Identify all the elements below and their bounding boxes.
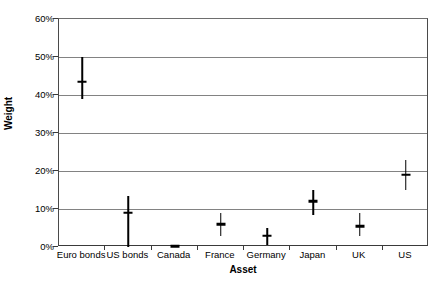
data-series-weight [59,19,427,245]
x-axis-tick-label: France [205,249,235,260]
x-axis-tick-mark [382,246,383,250]
y-axis-tick-label: 40% [4,89,54,100]
x-axis-tick-label: Euro bonds [57,249,106,260]
x-axis-tick-label: US [398,249,411,260]
x-axis-tick-label: Canada [157,249,190,260]
x-axis-tick-mark [104,246,105,250]
x-axis-tick-mark [336,246,337,250]
plot-area [58,18,428,246]
center-marker [170,245,179,248]
x-axis-tick-label: Germany [247,249,286,260]
center-marker [401,174,410,177]
range-bar [81,57,83,99]
center-marker [124,212,133,215]
x-axis-title: Asset [58,264,428,275]
x-axis-tick-mark [243,246,244,250]
y-axis-tick-label: 30% [4,127,54,138]
y-axis-tick-label: 20% [4,165,54,176]
weight-by-asset-chart: Weight 0%10%20%30%40%50%60% Euro bondsUS… [0,0,441,288]
x-axis-tick-label: UK [352,249,365,260]
y-axis-tick-label: 50% [4,51,54,62]
x-axis-tick-mark [197,246,198,250]
x-axis-tick-label: US bonds [107,249,149,260]
y-axis-tick-label: 60% [4,13,54,24]
center-marker [309,200,318,203]
center-marker [355,225,364,228]
center-marker [263,234,272,237]
range-bar [128,196,130,247]
x-axis-tick-label: Japan [299,249,325,260]
y-axis-tick-label: 0% [4,241,54,252]
y-axis-tick-label: 10% [4,203,54,214]
center-marker [216,223,225,226]
x-axis-tick-mark [289,246,290,250]
y-axis-tick-mark [53,246,58,247]
center-marker [78,80,87,83]
x-axis-tick-labels: Euro bondsUS bondsCanadaFranceGermanyJap… [58,249,428,265]
y-axis-tick-labels: 0%10%20%30%40%50%60% [0,18,54,246]
x-axis-tick-mark [151,246,152,250]
